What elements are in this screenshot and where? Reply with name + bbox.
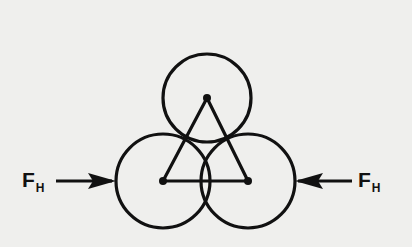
right-force-arrow — [295, 173, 352, 189]
three-circle-force-diagram — [0, 0, 412, 247]
center-triangle — [163, 98, 248, 181]
center-dot-bottom-right — [244, 177, 252, 185]
center-dot-bottom-left — [159, 177, 167, 185]
right-force-label: FH — [358, 168, 381, 192]
center-dot-top — [203, 94, 211, 102]
left-force-arrow — [56, 173, 116, 189]
left-force-label: FH — [22, 168, 45, 192]
